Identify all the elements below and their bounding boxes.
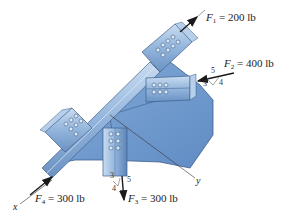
f2-slope-b: 4 [219, 79, 223, 87]
f3-slope-hyp: 5 [127, 176, 131, 184]
f4-label: F4 = 300 lb [35, 193, 85, 206]
member-f3 [103, 128, 127, 176]
f1-line-of-action [197, 10, 205, 17]
f3-slope-a: 3 [110, 172, 114, 180]
f3-slope-b: 4 [112, 185, 116, 193]
f3-label: F3 = 300 lb [128, 193, 178, 206]
f2-slope-hyp: 5 [211, 67, 215, 75]
y-axis-label: y [196, 176, 200, 186]
f3-arrow [122, 176, 124, 200]
f2-slope-a: 3 [203, 80, 207, 88]
gusset-plate-diagram: F1 = 200 lb F2 = 400 lb 5 3 4 3 5 4 F3 =… [0, 0, 284, 215]
f2-label: F2 = 400 lb [224, 58, 274, 71]
member-f2 [146, 74, 196, 102]
diagram-canvas [0, 0, 284, 215]
f1-label: F1 = 200 lb [206, 12, 256, 25]
x-axis-label: x [13, 202, 17, 212]
